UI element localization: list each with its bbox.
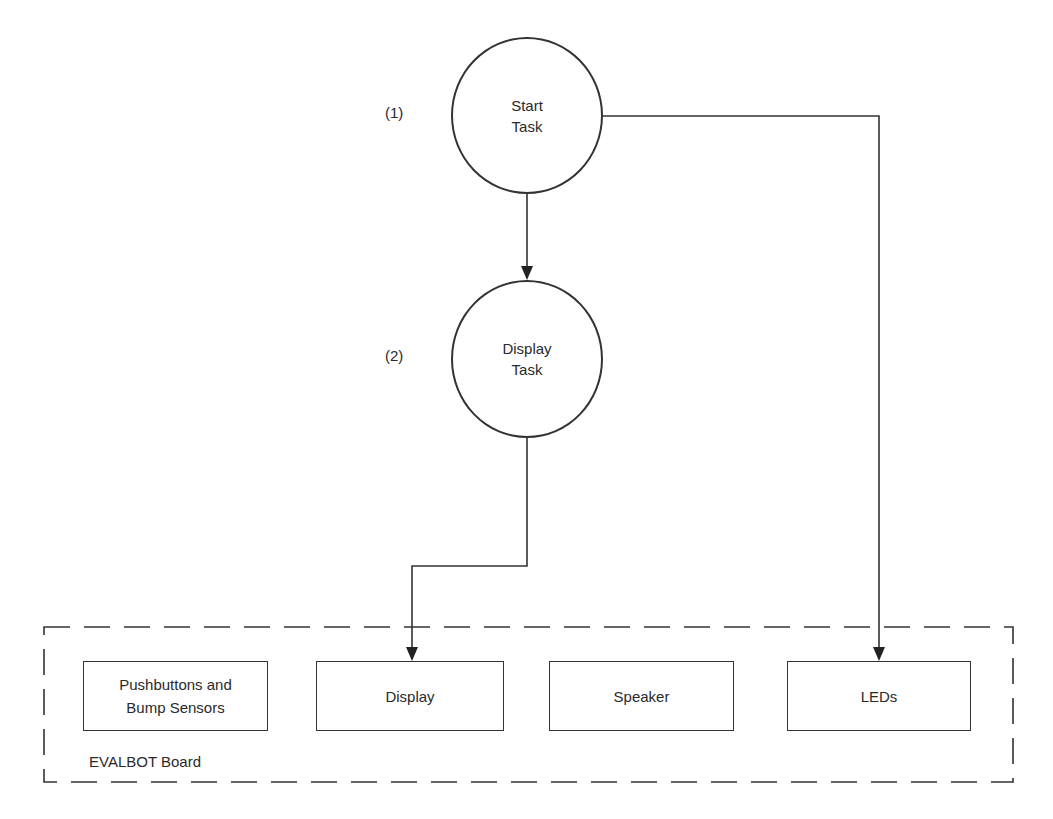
- display-label: Display: [385, 685, 434, 708]
- edge-display-task-to-display: [412, 437, 527, 647]
- task-number-1: (1): [385, 104, 403, 121]
- pushbuttons-component: Pushbuttons and Bump Sensors: [83, 661, 268, 731]
- start-task-label: Start Task: [511, 95, 543, 137]
- board-label: EVALBOT Board: [89, 753, 201, 770]
- arrowhead-icon: [873, 647, 885, 661]
- display-component: Display: [316, 661, 504, 731]
- display-task-node: Display Task: [451, 280, 603, 438]
- arrowhead-icon: [521, 266, 533, 280]
- display-task-label: Display Task: [502, 338, 551, 380]
- leds-component: LEDs: [787, 661, 971, 731]
- speaker-label: Speaker: [614, 685, 670, 708]
- leds-label: LEDs: [861, 685, 898, 708]
- pushbuttons-label: Pushbuttons and Bump Sensors: [119, 673, 232, 719]
- edge-start-to-leds: [602, 116, 879, 647]
- task-number-2: (2): [385, 347, 403, 364]
- speaker-component: Speaker: [549, 661, 734, 731]
- start-task-node: Start Task: [451, 37, 603, 194]
- arrowhead-icon: [406, 647, 418, 661]
